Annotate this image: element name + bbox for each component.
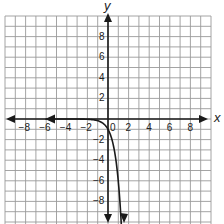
y-tick-label: −2 — [93, 135, 104, 145]
y-axis-label: y — [104, 0, 111, 12]
y-tick-label: −6 — [93, 176, 104, 186]
x-tick-label: −8 — [19, 123, 30, 133]
coordinate-plane — [0, 0, 224, 224]
y-tick-label: 4 — [99, 73, 105, 83]
x-tick-label: 2 — [126, 123, 132, 133]
x-tick-label: 4 — [146, 123, 152, 133]
x-tick-label: −2 — [80, 123, 91, 133]
y-tick-label: 6 — [99, 52, 105, 62]
x-tick-label: −4 — [60, 123, 71, 133]
x-axis-label: x — [214, 111, 221, 124]
y-tick-label: 2 — [99, 93, 105, 103]
x-tick-label: −6 — [39, 123, 50, 133]
y-tick-label: −8 — [93, 196, 104, 206]
x-tick-label: 6 — [167, 123, 173, 133]
function-curve — [46, 119, 121, 224]
y-tick-label: 8 — [99, 32, 105, 42]
y-tick-label: −4 — [93, 155, 104, 165]
x-tick-label: 8 — [187, 123, 193, 133]
x-tick-label: 0 — [110, 123, 116, 133]
